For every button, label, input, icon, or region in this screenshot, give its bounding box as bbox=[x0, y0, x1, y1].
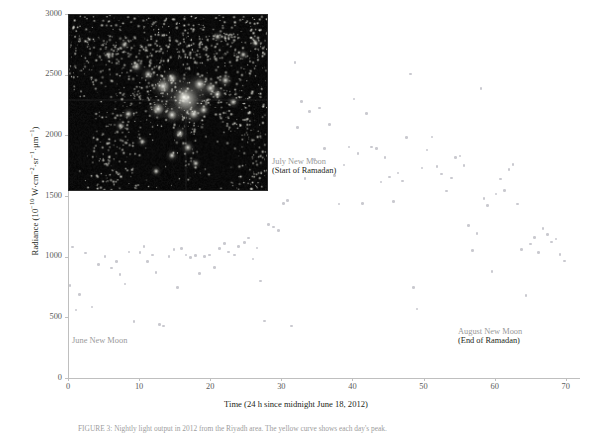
data-point bbox=[259, 280, 262, 283]
data-point bbox=[91, 306, 94, 309]
data-point bbox=[365, 112, 368, 115]
data-point bbox=[104, 255, 107, 258]
data-point bbox=[243, 241, 246, 244]
data-point bbox=[267, 223, 270, 226]
data-point bbox=[563, 260, 566, 263]
annotation-august-new-moon: August New Moon (End of Ramadan) bbox=[458, 327, 522, 345]
data-point bbox=[405, 136, 408, 139]
data-point bbox=[338, 203, 341, 206]
x-tick-20 bbox=[210, 378, 211, 381]
y-tick-label-3000: 3000 bbox=[28, 9, 62, 18]
annotation-june-new-moon: June New Moon bbox=[72, 336, 127, 345]
data-point bbox=[495, 193, 498, 196]
y-tick-label-2000: 2000 bbox=[28, 130, 62, 139]
data-point bbox=[146, 260, 149, 263]
data-point bbox=[384, 156, 387, 159]
x-tick-50 bbox=[424, 378, 425, 381]
y-tick-500 bbox=[65, 317, 68, 318]
data-point bbox=[388, 176, 391, 179]
data-point bbox=[533, 236, 536, 239]
y-tick-label-2500: 2500 bbox=[28, 69, 62, 78]
data-point bbox=[483, 197, 486, 200]
data-point bbox=[555, 238, 558, 241]
data-point bbox=[392, 200, 395, 203]
y-tick-label-500: 500 bbox=[28, 312, 62, 321]
data-point bbox=[162, 325, 165, 328]
x-tick-label-0: 0 bbox=[53, 382, 83, 391]
data-point bbox=[431, 136, 434, 139]
x-tick-70 bbox=[566, 378, 567, 381]
data-point bbox=[409, 73, 412, 76]
data-point bbox=[272, 226, 275, 229]
data-point bbox=[480, 87, 483, 90]
data-point bbox=[176, 286, 179, 289]
annotation-august-gray: August New Moon bbox=[458, 327, 522, 336]
data-point bbox=[124, 283, 127, 286]
x-tick-label-40: 40 bbox=[337, 382, 367, 391]
data-point bbox=[143, 245, 146, 248]
data-point bbox=[233, 254, 236, 257]
data-point bbox=[252, 258, 255, 261]
x-tick-label-50: 50 bbox=[409, 382, 439, 391]
data-point bbox=[412, 286, 415, 289]
data-point bbox=[189, 256, 192, 259]
data-point bbox=[203, 255, 206, 258]
data-point bbox=[151, 254, 154, 257]
data-point bbox=[463, 164, 466, 167]
data-point bbox=[237, 245, 240, 248]
y-tick-1500 bbox=[65, 196, 68, 197]
data-point bbox=[440, 173, 443, 176]
data-point bbox=[180, 247, 183, 250]
figure-container: Radiance (10−10 W·cm−2·sr−1·μm−1) 010203… bbox=[0, 0, 592, 434]
data-point bbox=[158, 323, 161, 326]
data-point bbox=[476, 232, 479, 235]
data-point bbox=[304, 177, 307, 180]
data-point bbox=[71, 246, 74, 249]
data-point bbox=[173, 248, 176, 251]
data-point bbox=[559, 253, 562, 256]
data-point bbox=[128, 251, 131, 254]
data-point bbox=[75, 309, 78, 312]
data-point bbox=[84, 252, 87, 255]
data-point bbox=[486, 204, 489, 207]
x-tick-label-60: 60 bbox=[480, 382, 510, 391]
y-tick-label-1000: 1000 bbox=[28, 251, 62, 260]
data-point bbox=[459, 155, 462, 158]
data-point bbox=[353, 98, 356, 101]
data-point bbox=[343, 164, 346, 167]
annotation-august-black: (End of Ramadan) bbox=[458, 336, 522, 345]
x-tick-60 bbox=[495, 378, 496, 381]
y-tick-label-1500: 1500 bbox=[28, 191, 62, 200]
data-point bbox=[294, 61, 297, 64]
data-point bbox=[491, 270, 494, 273]
data-point bbox=[263, 320, 266, 323]
y-tick-label-0: 0 bbox=[28, 373, 62, 382]
annotation-june-gray: June New Moon bbox=[72, 336, 127, 345]
annotation-july-gray: July New Moon bbox=[272, 157, 336, 166]
data-point bbox=[119, 273, 122, 276]
data-point bbox=[300, 100, 303, 103]
data-point bbox=[69, 284, 72, 287]
data-point bbox=[471, 249, 474, 252]
data-point bbox=[318, 107, 321, 110]
data-point bbox=[308, 110, 311, 113]
data-point bbox=[508, 168, 511, 171]
data-point bbox=[296, 126, 299, 129]
x-tick-30 bbox=[281, 378, 282, 381]
data-point bbox=[525, 294, 528, 297]
x-tick-10 bbox=[139, 378, 140, 381]
data-point bbox=[256, 247, 259, 250]
data-point bbox=[550, 241, 553, 244]
data-point bbox=[286, 199, 289, 202]
x-tick-label-70: 70 bbox=[551, 382, 581, 391]
data-point bbox=[375, 147, 378, 150]
x-tick-label-20: 20 bbox=[195, 382, 225, 391]
data-point bbox=[227, 251, 230, 254]
data-point bbox=[139, 251, 142, 254]
y-tick-1000 bbox=[65, 257, 68, 258]
annotation-july-black: (Start of Ramadan) bbox=[272, 166, 336, 175]
data-point bbox=[78, 293, 81, 296]
data-point bbox=[155, 271, 158, 274]
data-point bbox=[115, 260, 118, 263]
data-point bbox=[194, 254, 197, 257]
